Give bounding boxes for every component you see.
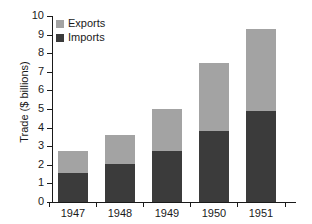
x-tick-label-1951: 1951 (238, 207, 284, 219)
y-tick (47, 109, 52, 110)
y-tick (47, 72, 52, 73)
bar-segment-exports[interactable] (246, 29, 276, 111)
bar-segment-imports[interactable] (199, 131, 229, 202)
bar-1949[interactable] (152, 109, 182, 202)
y-tick-label: 5 (22, 103, 44, 114)
stacked-bar-chart: Trade ($ billions) 012345678910 19471948… (0, 0, 312, 224)
bar-segment-imports[interactable] (246, 111, 276, 202)
y-tick-label: 9 (22, 29, 44, 40)
y-tick-label: 10 (22, 10, 44, 21)
bar-1951[interactable] (246, 29, 276, 202)
legend-swatch-imports (56, 34, 64, 42)
y-tick-label: 1 (22, 177, 44, 188)
y-tick-label: 0 (22, 196, 44, 207)
bar-segment-imports[interactable] (152, 151, 182, 202)
y-tick-label: 6 (22, 84, 44, 95)
legend-swatch-exports (56, 20, 64, 28)
y-tick (47, 146, 52, 147)
bar-1947[interactable] (58, 151, 88, 202)
bar-segment-exports[interactable] (58, 151, 88, 173)
y-tick (47, 90, 52, 91)
y-tick (47, 53, 52, 54)
x-tick-label-1948: 1948 (97, 207, 143, 219)
y-axis-line (52, 16, 53, 203)
x-tick (285, 203, 286, 207)
y-tick (47, 183, 52, 184)
y-tick (47, 165, 52, 166)
y-tick-label: 4 (22, 122, 44, 133)
x-tick-label-1947: 1947 (50, 207, 96, 219)
bar-1948[interactable] (105, 135, 135, 202)
x-tick-label-1949: 1949 (144, 207, 190, 219)
y-tick-label: 3 (22, 140, 44, 151)
bar-segment-exports[interactable] (152, 109, 182, 151)
legend-label-exports: Exports (68, 17, 105, 30)
y-tick-label: 7 (22, 66, 44, 77)
bar-segment-imports[interactable] (58, 173, 88, 202)
bar-segment-exports[interactable] (105, 135, 135, 164)
y-tick (47, 16, 52, 17)
bar-1950[interactable] (199, 63, 229, 203)
bar-segment-exports[interactable] (199, 63, 229, 132)
y-tick (47, 35, 52, 36)
x-axis-line (52, 202, 296, 203)
y-tick (47, 128, 52, 129)
legend-label-imports: Imports (68, 31, 105, 44)
y-tick-label: 2 (22, 159, 44, 170)
bar-segment-imports[interactable] (105, 164, 135, 202)
y-tick-label: 8 (22, 47, 44, 58)
x-tick-label-1950: 1950 (191, 207, 237, 219)
